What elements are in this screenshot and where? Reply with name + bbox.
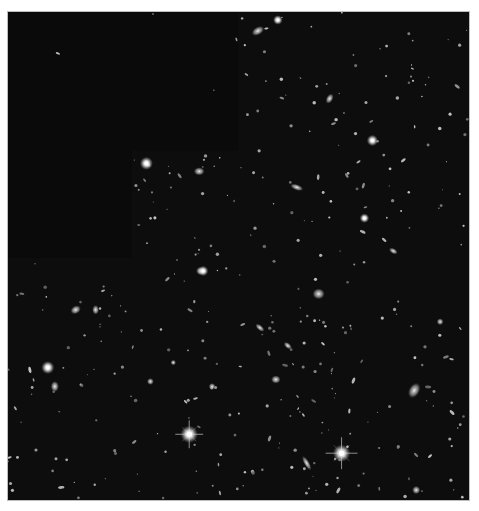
deep-field-image bbox=[7, 11, 470, 501]
star-field bbox=[8, 12, 469, 500]
